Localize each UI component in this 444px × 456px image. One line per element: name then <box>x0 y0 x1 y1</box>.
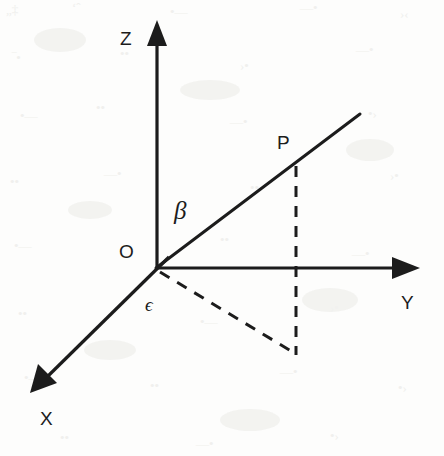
angle-beta-label: β <box>174 198 186 223</box>
z-axis <box>147 20 167 268</box>
y-axis <box>156 257 420 279</box>
z-axis-label: Z <box>120 29 132 48</box>
x-axis-arrowhead <box>30 364 57 393</box>
x-axis-label: X <box>40 409 53 428</box>
point-p-label: P <box>277 133 290 152</box>
y-axis-label: Y <box>401 293 414 312</box>
origin-label: O <box>119 242 134 261</box>
angle-epsilon-label: ϵ <box>145 295 153 314</box>
figure-canvas: „‡ ‘ˆ •— —• ›‹ ‾• •• ›• —• •— •• —• •› •… <box>0 0 444 456</box>
y-axis-arrowhead <box>392 257 420 279</box>
axes-diagram <box>0 0 444 456</box>
ground-projection-line <box>160 272 296 354</box>
x-axis <box>30 257 169 393</box>
z-axis-arrowhead <box>147 20 167 46</box>
op-ray <box>156 114 360 268</box>
